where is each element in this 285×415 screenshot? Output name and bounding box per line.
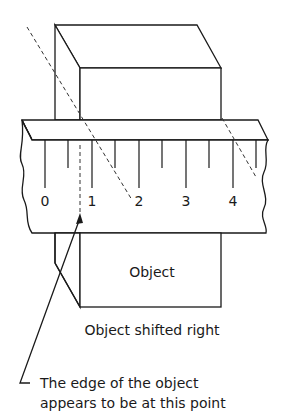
annotation-line-1: The edge of the object	[39, 375, 199, 391]
figure-caption: Object shifted right	[84, 322, 220, 338]
ruler-label-0: 0	[41, 193, 50, 209]
ruler-label-4: 4	[229, 193, 238, 209]
object-block-upper	[55, 25, 221, 120]
ruler-label-1: 1	[88, 193, 97, 209]
ruler-label-2: 2	[135, 193, 144, 209]
parallax-ruler-diagram: 0 1 2 3 4 Object Object shifted right Th…	[0, 0, 285, 415]
object-label: Object	[129, 264, 175, 280]
ruler	[20, 120, 268, 233]
annotation-line-2: appears to be at this point	[40, 395, 226, 411]
ruler-label-3: 3	[182, 193, 191, 209]
